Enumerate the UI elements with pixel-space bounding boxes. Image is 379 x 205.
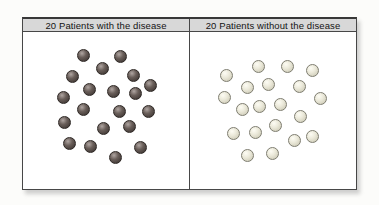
- figure-header-row: 20 Patients with the disease 20 Patients…: [23, 19, 356, 32]
- panel-with-disease: [23, 32, 190, 190]
- patients-figure-box: 20 Patients with the disease 20 Patients…: [22, 17, 357, 190]
- figure-canvas: 20 Patients with the disease 20 Patients…: [0, 0, 379, 205]
- panel-without-disease: [190, 32, 356, 190]
- figure-body-row: [23, 32, 356, 190]
- header-with-disease: 20 Patients with the disease: [23, 19, 190, 31]
- header-without-disease: 20 Patients without the disease: [190, 19, 356, 31]
